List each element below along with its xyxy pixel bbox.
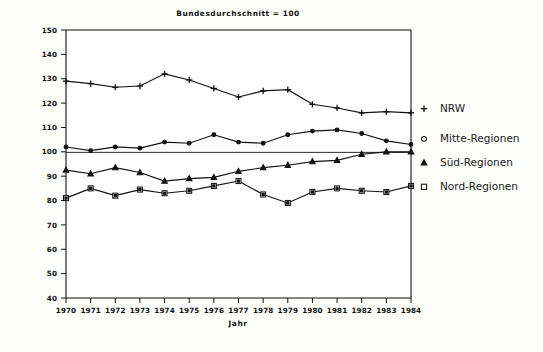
y-tick-label: 90 <box>47 172 57 181</box>
marker-circle <box>138 146 142 150</box>
marker-square-inner <box>410 185 412 187</box>
x-tick-label: 1981 <box>327 306 347 315</box>
x-tick-label: 1984 <box>401 306 421 315</box>
legend-entry-nord-regionen[interactable]: Nord-Regionen <box>421 180 518 192</box>
x-tick-label: 1976 <box>204 306 224 315</box>
marker-square-inner <box>311 191 313 193</box>
y-tick-label: 110 <box>42 123 57 132</box>
marker-circle <box>360 132 364 136</box>
y-tick-label: 100 <box>42 147 57 156</box>
marker-circle <box>163 140 167 144</box>
x-axis: 1970197119721973197419751976197719781979… <box>56 298 421 315</box>
x-tick-label: 1977 <box>228 306 248 315</box>
x-tick-label: 1974 <box>154 306 174 315</box>
x-axis-title: Jahr <box>227 319 247 328</box>
legend-label: Süd-Regionen <box>440 156 513 168</box>
x-tick-label: 1983 <box>376 306 396 315</box>
x-tick-label: 1972 <box>105 306 125 315</box>
marker-circle <box>286 133 290 137</box>
marker-circle <box>409 143 413 147</box>
y-tick-label: 50 <box>47 269 57 278</box>
x-tick-label: 1973 <box>130 306 150 315</box>
marker-square-inner <box>188 190 190 192</box>
y-tick-label: 120 <box>42 99 57 108</box>
y-tick-label: 130 <box>42 74 57 83</box>
legend-label: NRW <box>440 102 466 114</box>
marker-circle <box>113 145 117 149</box>
legend-label: Mitte-Regionen <box>440 132 520 144</box>
marker-square-inner <box>163 192 165 194</box>
marker-circle <box>261 141 265 145</box>
marker-circle <box>64 145 68 149</box>
marker-circle <box>384 139 388 143</box>
x-tick-label: 1979 <box>278 306 298 315</box>
marker-square-inner <box>262 193 264 195</box>
marker-circle <box>311 129 315 133</box>
marker-triangle <box>421 160 427 165</box>
marker-circle <box>89 149 93 153</box>
marker-square-inner <box>114 195 116 197</box>
marker-square-inner <box>361 190 363 192</box>
marker-circle <box>187 141 191 145</box>
legend-marker-circle <box>422 136 427 141</box>
marker-square-inner <box>90 187 92 189</box>
y-tick-label: 70 <box>47 221 57 230</box>
legend-label: Nord-Regionen <box>440 180 518 192</box>
legend-entry-nrw[interactable]: NRW <box>421 102 466 114</box>
marker-circle <box>335 128 339 132</box>
marker-circle <box>237 140 241 144</box>
line-chart: Bundesdurchschnitt = 100 405060708090100… <box>0 0 543 352</box>
legend-marker-square <box>421 184 426 189</box>
marker-square-inner <box>65 197 67 199</box>
x-tick-label: 1975 <box>179 306 199 315</box>
marker-square-inner <box>287 202 289 204</box>
marker-square-inner <box>385 191 387 193</box>
y-axis: 405060708090100110120130140150 <box>42 26 66 303</box>
x-tick-label: 1970 <box>56 306 76 315</box>
chart-figure: Bundesdurchschnitt = 100 405060708090100… <box>0 0 543 352</box>
marker-square-inner <box>139 188 141 190</box>
marker-circle <box>212 133 216 137</box>
chart-title: Bundesdurchschnitt = 100 <box>176 9 300 18</box>
x-tick-label: 1971 <box>80 306 100 315</box>
y-tick-label: 40 <box>47 294 57 303</box>
chart-legend: NRWMitte-RegionenSüd-RegionenNord-Region… <box>421 102 520 192</box>
marker-square-inner <box>237 180 239 182</box>
y-tick-label: 150 <box>42 26 57 35</box>
plot-background <box>66 30 411 298</box>
y-tick-label: 80 <box>47 196 57 205</box>
legend-entry-mitte-regionen[interactable]: Mitte-Regionen <box>422 132 520 144</box>
x-tick-label: 1980 <box>302 306 322 315</box>
marker-square-inner <box>213 185 215 187</box>
y-tick-label: 60 <box>47 245 57 254</box>
x-tick-label: 1978 <box>253 306 273 315</box>
legend-entry-s-d-regionen[interactable]: Süd-Regionen <box>421 156 513 168</box>
x-tick-label: 1982 <box>352 306 372 315</box>
y-tick-label: 140 <box>42 50 57 59</box>
marker-square-inner <box>336 187 338 189</box>
